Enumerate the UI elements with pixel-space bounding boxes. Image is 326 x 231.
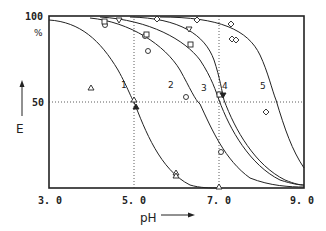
reference-lines [49, 16, 304, 188]
marker-triangle [216, 184, 222, 189]
x-tick-5: 5. 0 [122, 195, 146, 206]
x-axis-label: pH [140, 211, 157, 225]
marker-diamond [263, 109, 269, 115]
curves [49, 17, 304, 188]
curve-label-4: 4 [222, 81, 228, 91]
x-tick-3: 3. 0 [38, 195, 62, 206]
y-tick-50: 50 [32, 97, 44, 108]
marker-square [188, 42, 193, 47]
marker-circle [146, 49, 151, 54]
marker-diamond [194, 17, 200, 23]
marker-triangle [88, 85, 94, 90]
markers [88, 16, 269, 189]
curve-1 [49, 20, 220, 188]
curve-2 [90, 18, 304, 187]
x-tick-9: 9. 0 [290, 195, 314, 206]
curve-4 [130, 17, 304, 185]
chart: 1 2 3 4 5 100 50 % E 3. 0 5. 0 7. 0 9. 0… [0, 0, 326, 231]
marker-diamond [228, 21, 234, 27]
curve-label-3: 3 [201, 83, 207, 93]
y-unit: % [34, 28, 43, 38]
marker-circle [184, 95, 189, 100]
marker-inverted-triangle [116, 18, 122, 23]
curve-label-1: 1 [121, 80, 127, 90]
x-tick-7: 7. 0 [207, 195, 231, 206]
marker-diamond [154, 16, 160, 22]
x-arrow-head-icon [188, 213, 195, 218]
y-arrow-head-icon [20, 80, 25, 87]
curve-label-2: 2 [168, 80, 174, 90]
y-tick-100: 100 [25, 11, 43, 22]
curve-3 [100, 17, 304, 185]
marker-square [102, 19, 107, 24]
y-axis-label: E [16, 122, 24, 136]
marker-square [144, 32, 149, 37]
curve-label-5: 5 [260, 81, 266, 91]
marker-circle [219, 150, 224, 155]
